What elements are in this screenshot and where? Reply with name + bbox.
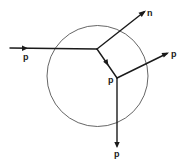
scattering-diagram: p n p p p bbox=[0, 0, 185, 161]
sphere-boundary bbox=[47, 26, 148, 127]
label-vertex-b: p bbox=[108, 75, 114, 85]
label-outgoing-right: p bbox=[171, 49, 177, 59]
arrowhead-incoming bbox=[22, 46, 28, 52]
label-outgoing-down: p bbox=[114, 149, 120, 159]
ray-outgoing-n bbox=[97, 12, 144, 49]
label-outgoing-n: n bbox=[147, 8, 153, 18]
arrowhead-outgoing-right bbox=[162, 53, 170, 58]
ray-outgoing-right bbox=[117, 54, 167, 79]
arrowhead-outgoing-down bbox=[114, 142, 119, 148]
label-incoming: p bbox=[23, 52, 29, 62]
